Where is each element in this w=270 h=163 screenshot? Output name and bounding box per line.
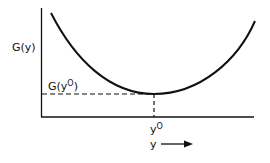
min-value-label: G(yO) <box>48 79 78 93</box>
diagram: G(y) G(yO) yO y <box>0 0 270 163</box>
x-axis-label: y <box>150 138 157 151</box>
right-arrow-icon <box>161 141 193 148</box>
y-axis-label: G(y) <box>12 41 36 54</box>
cost-curve <box>51 13 255 94</box>
min-point-label: yO <box>150 122 163 136</box>
